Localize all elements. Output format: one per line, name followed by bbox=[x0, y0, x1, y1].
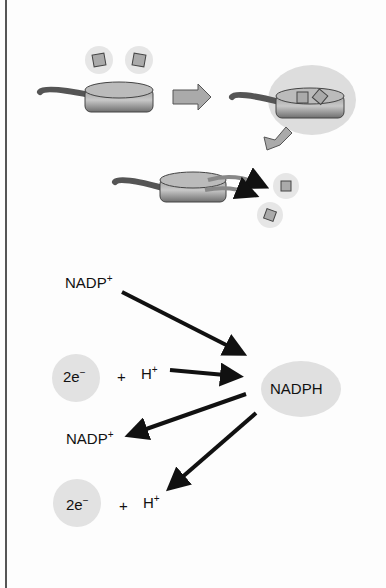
label-plus-out: + bbox=[119, 497, 128, 514]
pan-icon-loaded bbox=[232, 65, 356, 135]
released-item-icon bbox=[257, 173, 299, 228]
label-plus-in: + bbox=[117, 368, 126, 385]
arrow-h-to-nadph bbox=[170, 370, 236, 376]
diagram-root: NADP+ 2e− + H+ NADPH NADP+ 2e− + H+ bbox=[0, 0, 386, 588]
arrow-nadph-to-nadp bbox=[132, 394, 246, 434]
pan-icon-empty bbox=[40, 82, 153, 112]
label-h-plus-out: H+ bbox=[143, 493, 160, 511]
pan-icon-releasing bbox=[115, 172, 262, 202]
label-h-plus-in: H+ bbox=[141, 364, 158, 382]
label-2e-minus-in: 2e− bbox=[63, 367, 86, 385]
label-nadph: NADPH bbox=[270, 380, 323, 397]
arrow-nadph-to-h bbox=[172, 413, 256, 486]
label-nadp-plus-top: NADP+ bbox=[65, 273, 113, 291]
arrow-nadp-to-nadph bbox=[122, 292, 240, 352]
gray-arrow-icon-right bbox=[173, 84, 211, 110]
diagram-graphics bbox=[0, 0, 386, 588]
label-2e-minus-out: 2e− bbox=[66, 495, 89, 513]
reaction-arrows bbox=[122, 292, 256, 486]
gray-arrow-icon-down-left bbox=[264, 127, 292, 150]
label-nadp-plus-released: NADP+ bbox=[66, 429, 114, 447]
hot-item-icon bbox=[85, 46, 153, 74]
